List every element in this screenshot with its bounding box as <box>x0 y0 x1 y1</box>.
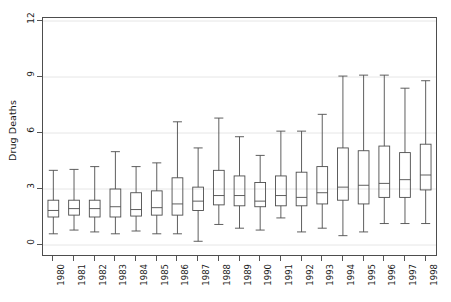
y-axis-tick-label-text: 9 <box>26 71 36 77</box>
x-axis-tick-mark <box>218 256 219 261</box>
box-iqr <box>255 182 266 206</box>
box-plot-item <box>358 75 369 232</box>
box-plot-item <box>338 76 349 236</box>
x-axis-tick-mark <box>52 256 53 261</box>
x-axis-tick-mark <box>321 256 322 261</box>
y-axis-tick-mark <box>37 132 42 133</box>
x-axis-tick-label: 1995 <box>367 264 377 286</box>
x-axis-tick-mark <box>73 256 74 261</box>
x-axis-tick-label: 1985 <box>160 264 170 286</box>
y-axis-tick-label-text: 12 <box>26 12 36 23</box>
box-plot-item <box>275 131 286 218</box>
box-plot-item <box>296 131 307 232</box>
y-axis-tick-label: 12 <box>24 13 38 23</box>
y-axis-tick-label-text: 0 <box>26 239 36 245</box>
box-plot-item <box>420 81 431 224</box>
box-plot-item <box>213 118 224 224</box>
box-plot-item <box>172 122 183 234</box>
x-axis-tick-label: 1992 <box>305 264 315 286</box>
box-plot-item <box>255 155 266 230</box>
y-axis-tick-label: 9 <box>24 69 38 79</box>
y-axis-tick-label: 6 <box>24 125 38 135</box>
x-axis-tick-label: 1982 <box>98 264 108 286</box>
y-axis-tick-mark <box>37 76 42 77</box>
box-iqr <box>420 144 431 190</box>
box-plot-item <box>48 170 59 233</box>
x-axis-tick-mark <box>363 256 364 261</box>
box-iqr <box>131 193 142 216</box>
x-axis-tick-mark <box>404 256 405 261</box>
box-plot-item <box>89 167 100 232</box>
y-axis-tick-label-text: 6 <box>26 127 36 133</box>
box-plot-item <box>400 88 411 223</box>
box-plot-item <box>69 169 80 230</box>
y-axis-tick-labels: 036912 <box>24 0 38 302</box>
x-axis-tick-mark <box>383 256 384 261</box>
box-iqr <box>110 189 121 217</box>
box-iqr <box>275 176 286 206</box>
x-axis-tick-label: 1996 <box>387 264 397 286</box>
x-axis-tick-mark <box>342 256 343 261</box>
box-plot-item <box>151 163 162 234</box>
box-iqr <box>234 176 245 206</box>
x-axis-tick-mark <box>259 256 260 261</box>
box-iqr <box>379 146 390 197</box>
box-iqr <box>69 200 80 215</box>
x-axis-tick-label: 1983 <box>118 264 128 286</box>
x-axis-tick-label: 1989 <box>243 264 253 286</box>
boxplot-series <box>43 18 436 255</box>
box-iqr <box>213 170 224 205</box>
y-axis-tick-mark <box>37 20 42 21</box>
x-axis-tick-label: 1986 <box>180 264 190 286</box>
x-axis-tick-labels: 1980198119821983198419851986198719881989… <box>42 256 437 302</box>
x-axis-tick-mark <box>280 256 281 261</box>
x-axis-tick-label: 1994 <box>346 264 356 286</box>
x-axis-tick-mark <box>94 256 95 261</box>
x-axis-tick-label: 1988 <box>222 264 232 286</box>
x-axis-tick-mark <box>114 256 115 261</box>
box-plot-item <box>379 75 390 223</box>
x-axis-tick-label: 1987 <box>201 264 211 286</box>
box-iqr <box>172 178 183 215</box>
box-plot-item <box>317 114 328 228</box>
y-axis-title: Drug Deaths <box>0 0 26 260</box>
box-iqr <box>400 153 411 198</box>
box-plot-item <box>110 152 121 234</box>
x-axis-tick-mark <box>197 256 198 261</box>
x-axis-tick-mark <box>176 256 177 261</box>
x-axis-tick-mark <box>301 256 302 261</box>
x-axis-tick-mark <box>425 256 426 261</box>
x-axis-tick-label: 1998 <box>429 264 439 286</box>
x-axis-tick-label: 1991 <box>284 264 294 286</box>
y-axis-tick-label: 3 <box>24 181 38 191</box>
box-iqr <box>151 191 162 215</box>
box-plot-item <box>193 148 204 241</box>
x-axis-tick-mark <box>135 256 136 261</box>
box-iqr <box>48 200 59 217</box>
y-axis-title-label: Drug Deaths <box>8 99 19 160</box>
y-axis-tick-label: 0 <box>24 237 38 247</box>
x-axis-tick-mark <box>156 256 157 261</box>
y-axis-tick-mark <box>37 188 42 189</box>
x-axis-tick-label: 1984 <box>139 264 149 286</box>
y-axis-tick-label-text: 3 <box>26 183 36 189</box>
boxplot-chart: Drug Deaths 036912 198019811982198319841… <box>0 0 451 302</box>
x-axis-tick-label: 1990 <box>263 264 273 286</box>
box-iqr <box>193 187 204 210</box>
box-iqr <box>317 167 328 204</box>
x-axis-tick-mark <box>239 256 240 261</box>
box-iqr <box>338 148 349 200</box>
x-axis-tick-label: 1980 <box>56 264 66 286</box>
y-axis-tick-mark <box>37 244 42 245</box>
x-axis-tick-label: 1997 <box>408 264 418 286</box>
plot-area <box>42 17 437 256</box>
x-axis-tick-label: 1993 <box>325 264 335 286</box>
box-plot-item <box>131 167 142 231</box>
box-plot-item <box>234 137 245 228</box>
x-axis-tick-label: 1981 <box>77 264 87 286</box>
box-iqr <box>358 151 369 204</box>
